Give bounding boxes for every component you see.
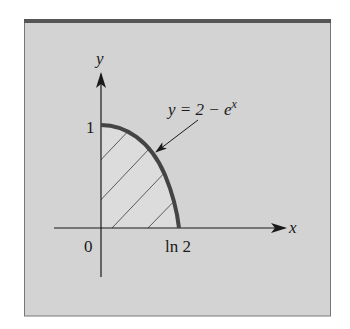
origin-label: 0 bbox=[84, 237, 93, 256]
y-axis-label: y bbox=[94, 49, 104, 68]
equation-main: y = 2 − e bbox=[166, 100, 232, 119]
curve-equation-label: y = 2 − ex bbox=[166, 97, 238, 119]
figure-frame bbox=[25, 21, 331, 316]
x-tick-ln2-label: ln 2 bbox=[165, 237, 191, 256]
y-tick-1-label: 1 bbox=[86, 118, 95, 137]
x-axis-label: x bbox=[288, 218, 297, 237]
frame-top-bar bbox=[24, 19, 331, 23]
equation-exponent: x bbox=[231, 97, 238, 111]
figure: y x 1 0 ln 2 y = 2 − ex bbox=[0, 0, 350, 329]
